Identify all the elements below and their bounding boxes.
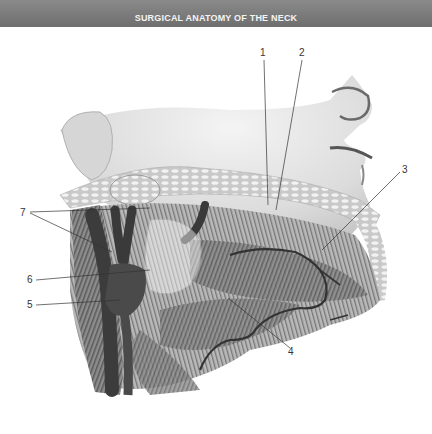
figure-label-1: 1 — [260, 47, 266, 58]
figure-label-2: 2 — [299, 47, 305, 58]
figure-label-4: 4 — [288, 346, 294, 357]
figure-label-5: 5 — [27, 299, 33, 310]
figure-label-3: 3 — [402, 164, 408, 175]
page-title: SURGICAL ANATOMY OF THE NECK — [0, 13, 432, 23]
figure-label-7: 7 — [20, 207, 26, 218]
header-bar: SURGICAL ANATOMY OF THE NECK — [0, 0, 432, 27]
anatomy-drawing — [0, 27, 432, 434]
figure-label-6: 6 — [27, 274, 33, 285]
anatomy-illustration: 1 2 3 4 5 6 7 — [0, 27, 432, 434]
